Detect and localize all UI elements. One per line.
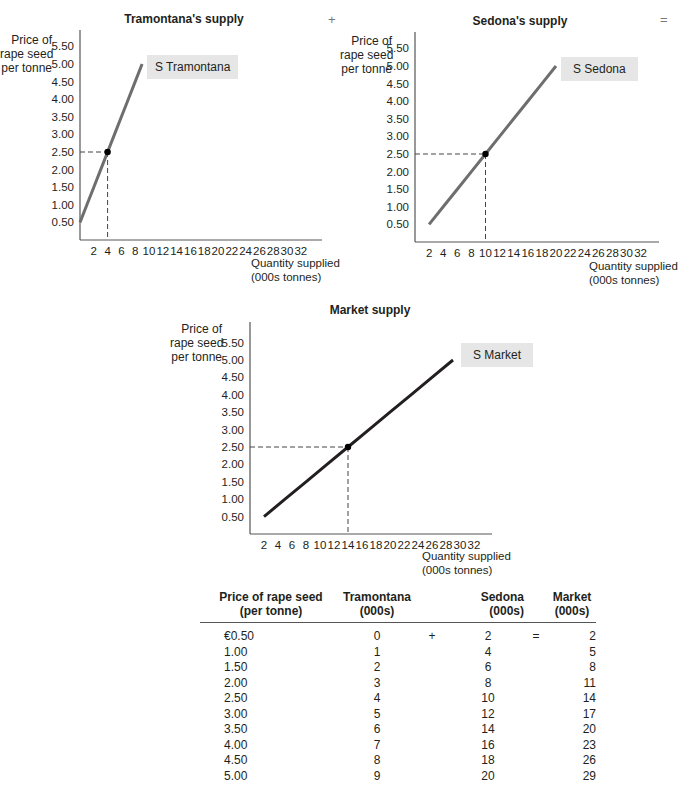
tramontana-cell: 6 — [342, 722, 412, 738]
y-tick-label: 1.50 — [52, 181, 74, 193]
x-tick-label: 22 — [564, 247, 577, 259]
x-tick-label: 28 — [606, 247, 619, 259]
header-line: (000s) — [452, 604, 524, 618]
plus-cell — [412, 676, 452, 692]
y-tick-label: 4.50 — [52, 76, 74, 88]
x-axis-label-line: Quantity supplied — [422, 549, 511, 563]
y-tick-label: 5.00 — [387, 60, 409, 72]
table-row: 4.0071623 — [200, 738, 596, 754]
x-tick-label: 4 — [104, 245, 111, 257]
x-tick-label: 4 — [440, 247, 447, 259]
price-cell: 2.00 — [200, 676, 342, 692]
sedona-cell: 10 — [452, 691, 524, 707]
y-tick-label: 4.50 — [387, 78, 409, 90]
tramontana-cell: 1 — [342, 645, 412, 661]
x-axis-label: Quantity supplied (000s tonnes) — [422, 549, 511, 577]
market-cell: 23 — [548, 738, 596, 754]
x-tick-label: 18 — [198, 245, 211, 257]
table-header-row: Price of rape seed(per tonne) Tramontana… — [200, 590, 596, 623]
x-tick-label: 16 — [184, 245, 197, 257]
table-body: €0.500+2=21.001451.502682.0038112.504101… — [200, 623, 596, 785]
x-tick-label: 14 — [170, 245, 183, 257]
table-row: 1.50268 — [200, 660, 596, 676]
y-tick-label: 1.00 — [222, 493, 244, 505]
supply-schedule-table: Price of rape seed(per tonne) Tramontana… — [200, 590, 596, 784]
x-tick-label: 6 — [289, 539, 295, 551]
x-tick-label: 2 — [261, 539, 267, 551]
sedona-cell: 8 — [452, 676, 524, 692]
x-tick-label: 14 — [507, 247, 520, 259]
y-tick-label: 2.50 — [222, 441, 244, 453]
y-tick-label: 3.00 — [387, 130, 409, 142]
tramontana-cell: 7 — [342, 738, 412, 754]
x-tick-label: 26 — [592, 247, 605, 259]
plus-cell — [412, 707, 452, 723]
market-cell: 20 — [548, 722, 596, 738]
equals-cell — [524, 645, 548, 661]
y-tick-label: 1.50 — [387, 183, 409, 195]
x-tick-label: 8 — [132, 245, 138, 257]
supply-curve — [429, 66, 556, 224]
x-tick-label: 20 — [384, 539, 397, 551]
x-tick-label: 6 — [118, 245, 124, 257]
price-cell: 3.00 — [200, 707, 342, 723]
y-tick-label: 1.50 — [222, 476, 244, 488]
market-cell: 17 — [548, 707, 596, 723]
equals-cell — [524, 722, 548, 738]
market-cell: 14 — [548, 691, 596, 707]
x-tick-label: 12 — [493, 247, 506, 259]
y-tick-label: 4.00 — [52, 93, 74, 105]
market-cell: 11 — [548, 676, 596, 692]
x-axis-label: Quantity supplied (000s tonnes) — [589, 259, 678, 287]
x-tick-label: 8 — [303, 539, 309, 551]
curve-label: S Sedona — [561, 57, 638, 81]
x-axis-label: Quantity supplied (000s tonnes) — [251, 256, 340, 284]
x-tick-label: 10 — [314, 539, 327, 551]
header-market: Market(000s) — [548, 590, 596, 623]
x-tick-label: 22 — [398, 539, 411, 551]
table-row: €0.500+2=2 — [200, 623, 596, 645]
sedona-cell: 4 — [452, 645, 524, 661]
x-tick-label: 2 — [426, 247, 432, 259]
y-tick-label: 4.00 — [222, 389, 244, 401]
plus-cell: + — [412, 623, 452, 645]
x-axis-label-line: (000s tonnes) — [251, 270, 340, 284]
market-cell: 8 — [548, 660, 596, 676]
x-tick-label: 12 — [156, 245, 169, 257]
header-line: Tramontana — [342, 590, 412, 604]
table-row: 3.0051217 — [200, 707, 596, 723]
table-row: 2.5041014 — [200, 691, 596, 707]
plot-area: 0.501.001.502.002.503.003.504.004.505.00… — [170, 295, 510, 585]
plus-cell — [412, 691, 452, 707]
supply-curve — [264, 360, 453, 517]
tramontana-cell: 4 — [342, 691, 412, 707]
tramontana-cell: 9 — [342, 769, 412, 785]
sedona-cell: 2 — [452, 623, 524, 645]
header-tramontana: Tramontana(000s) — [342, 590, 412, 623]
y-tick-label: 4.00 — [387, 95, 409, 107]
price-cell: €0.50 — [200, 623, 342, 645]
header-price: Price of rape seed(per tonne) — [200, 590, 342, 623]
y-tick-label: 2.50 — [52, 146, 74, 158]
y-tick-label: 3.50 — [222, 406, 244, 418]
y-tick-label: 0.50 — [387, 218, 409, 230]
plus-cell — [412, 738, 452, 754]
price-cell: 1.00 — [200, 645, 342, 661]
y-tick-label: 3.00 — [52, 128, 74, 140]
x-tick-label: 32 — [634, 247, 647, 259]
sedona-cell: 12 — [452, 707, 524, 723]
market-cell: 29 — [548, 769, 596, 785]
y-tick-label: 2.50 — [387, 148, 409, 160]
table-row: 1.00145 — [200, 645, 596, 661]
y-tick-label: 3.50 — [387, 113, 409, 125]
y-tick-label: 2.00 — [222, 458, 244, 470]
header-spacer — [524, 590, 548, 623]
equals-cell: = — [524, 623, 548, 645]
tramontana-cell: 3 — [342, 676, 412, 692]
x-tick-label: 8 — [468, 247, 474, 259]
curve-label: S Market — [461, 343, 533, 367]
y-tick-label: 4.50 — [222, 371, 244, 383]
table-row: 3.5061420 — [200, 722, 596, 738]
tramontana-cell: 8 — [342, 753, 412, 769]
header-line: (per tonne) — [200, 604, 342, 618]
